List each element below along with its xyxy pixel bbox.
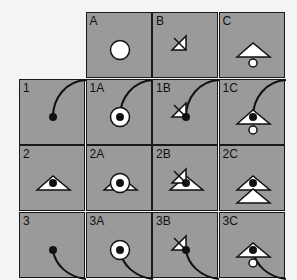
dot-icon	[49, 246, 57, 254]
dot-icon	[49, 179, 57, 187]
triangle-icon	[237, 43, 270, 57]
dot-icon	[182, 179, 190, 187]
small-circle-icon	[249, 259, 257, 267]
arc-icon	[186, 80, 219, 117]
arc-icon	[186, 250, 219, 279]
cell-3a: 3A	[86, 212, 152, 278]
dot-icon	[249, 179, 257, 187]
cell-2a: 2A	[86, 145, 152, 211]
cell-c: C	[219, 12, 285, 78]
dot-icon	[116, 246, 124, 254]
cell-2c: 2C	[219, 145, 285, 211]
cell-1a: 1A	[86, 79, 152, 145]
arc-icon	[53, 80, 86, 117]
dot-icon	[182, 246, 190, 254]
dot-icon	[249, 246, 257, 254]
cell-1c: 1C	[219, 79, 285, 145]
small-circle-icon	[249, 59, 257, 67]
arc-icon	[53, 250, 86, 279]
dot-icon	[116, 113, 124, 121]
cell-3c: 3C	[219, 212, 285, 278]
small-circle-icon	[249, 126, 257, 134]
cell-a: A	[86, 12, 152, 78]
dot-icon	[182, 113, 190, 121]
dot-icon	[49, 113, 57, 121]
circle-icon	[110, 41, 129, 60]
triangle-lower-icon	[237, 189, 270, 203]
dot-icon	[116, 179, 124, 187]
cell-3: 3	[19, 212, 85, 278]
cell-2: 2	[19, 145, 85, 211]
arc-icon	[253, 80, 286, 117]
half-triangle-x-icon	[172, 36, 186, 50]
cell-b: B	[152, 12, 218, 78]
cell-1: 1	[19, 79, 85, 145]
cell-1b: 1B	[152, 79, 218, 145]
dot-icon	[249, 113, 257, 121]
cell-2b: 2B	[152, 145, 218, 211]
cell-3b: 3B	[152, 212, 218, 278]
